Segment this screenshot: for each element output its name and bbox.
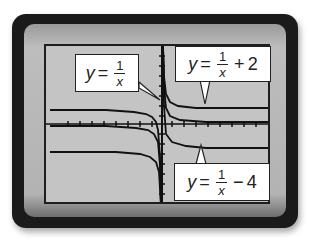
- fraction-denominator: x: [117, 74, 124, 88]
- label-lhs: y: [187, 172, 196, 193]
- label-shift-up-curve: y = 1 x + 2: [175, 46, 271, 82]
- label-lhs: y: [86, 63, 95, 84]
- fraction-numerator: 1: [114, 59, 125, 74]
- label-equals: =: [200, 54, 211, 75]
- fraction-denominator: x: [219, 65, 226, 79]
- fraction: 1 x: [216, 168, 227, 197]
- label-equals: =: [98, 63, 109, 84]
- label-constant: 4: [247, 172, 257, 193]
- fraction-numerator: 1: [217, 50, 228, 65]
- label-operator: +: [234, 54, 245, 75]
- label-constant: 2: [248, 54, 258, 75]
- fraction-numerator: 1: [216, 168, 227, 183]
- label-equals: =: [199, 172, 210, 193]
- label-shift-down-curve: y = 1 x − 4: [174, 163, 270, 201]
- label-base-curve: y = 1 x: [75, 54, 139, 92]
- label-lhs: y: [188, 54, 197, 75]
- fraction: 1 x: [114, 59, 125, 88]
- fraction: 1 x: [217, 50, 228, 79]
- label-operator: −: [233, 172, 244, 193]
- fraction-denominator: x: [218, 183, 225, 197]
